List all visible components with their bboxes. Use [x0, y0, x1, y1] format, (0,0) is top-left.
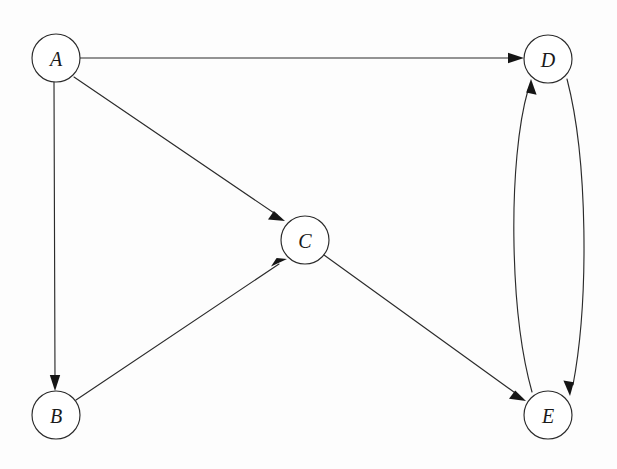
edge-c-to-e-arrowhead — [509, 390, 526, 401]
edge-d-to-e[interactable] — [563, 79, 584, 396]
edge-a-to-b-line — [54, 82, 55, 381]
edge-a-to-b-arrowhead — [50, 375, 60, 391]
edge-a-to-b[interactable] — [50, 82, 60, 391]
node-d[interactable]: D — [524, 35, 572, 83]
edge-b-to-c-arrowhead — [271, 258, 287, 267]
edge-a-to-c[interactable] — [74, 77, 285, 221]
graph-svg: A B C D E — [0, 0, 617, 469]
node-a-label: A — [48, 48, 63, 70]
edge-a-to-d-arrowhead — [508, 53, 524, 63]
edge-a-to-c-line — [74, 77, 277, 215]
edge-b-to-c[interactable] — [76, 258, 287, 400]
node-c-label: C — [298, 230, 312, 252]
edge-a-to-d[interactable] — [80, 53, 524, 63]
node-e-label: E — [541, 405, 554, 427]
node-b[interactable]: B — [32, 391, 80, 439]
node-e[interactable]: E — [524, 391, 572, 439]
node-a[interactable]: A — [32, 34, 80, 82]
node-d-label: D — [540, 49, 556, 71]
edge-b-to-c-line — [76, 264, 279, 400]
edge-e-to-d-arrowhead — [526, 79, 536, 95]
edge-e-to-d[interactable] — [514, 79, 537, 392]
edge-c-to-e[interactable] — [324, 255, 526, 401]
edge-a-to-c-arrowhead — [268, 211, 285, 221]
edge-d-to-e-curve — [567, 79, 584, 385]
node-layer: A B C D E — [32, 34, 572, 439]
edge-c-to-e-line — [324, 255, 518, 395]
node-b-label: B — [50, 405, 62, 427]
edge-e-to-d-curve — [514, 90, 532, 392]
graph-diagram-canvas: A B C D E — [0, 0, 617, 469]
node-c[interactable]: C — [281, 216, 329, 264]
edge-d-to-e-arrowhead — [563, 381, 573, 397]
